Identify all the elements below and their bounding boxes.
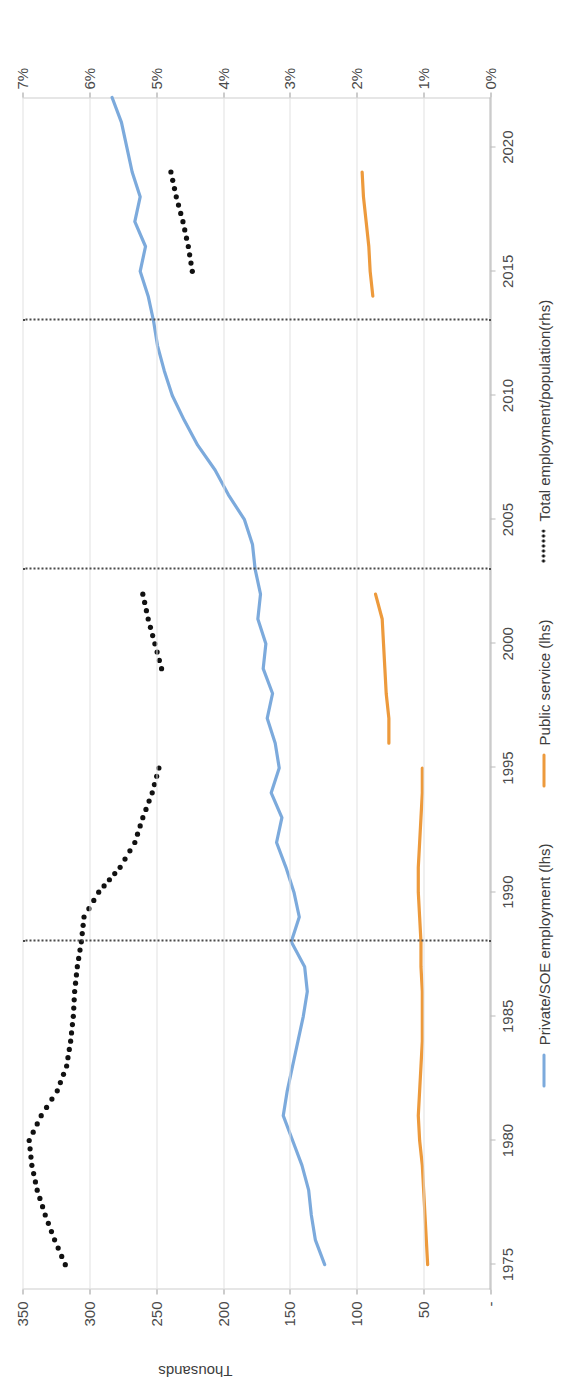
series-dot <box>49 1096 54 1101</box>
x-axis-tick <box>490 1263 495 1264</box>
legend-line-swatch-icon <box>542 1053 545 1087</box>
y-axis-left-tick <box>22 1289 23 1294</box>
y-axis-right-tick <box>156 92 157 97</box>
series-dot <box>72 980 77 985</box>
series-dot <box>34 1187 39 1192</box>
annotation-vline <box>22 319 490 321</box>
y-axis-right-tick-labels: 0%1%2%3%4%5%6%7% <box>22 37 490 89</box>
series-dot <box>185 243 190 248</box>
series-dot <box>91 897 96 902</box>
series-dot <box>77 947 82 952</box>
series-dot <box>127 848 132 853</box>
y-axis-right-tick <box>89 92 90 97</box>
series-dot <box>145 616 150 621</box>
series-dot <box>59 1253 64 1258</box>
annotation-vline <box>22 567 490 569</box>
legend-label: Total employment/population(rhs) <box>535 299 552 521</box>
series-layer <box>22 97 490 1289</box>
y-axis-right-tick-label: 7% <box>14 67 31 89</box>
x-axis-tick <box>490 767 495 768</box>
legend-item[interactable]: Public service (lhs) <box>535 619 552 787</box>
x-axis-tick-label: 2005 <box>498 502 515 535</box>
series-dot <box>173 194 178 199</box>
series-dot <box>146 798 151 803</box>
y-axis-left-tick-label: 300 <box>80 1301 97 1326</box>
x-axis-tick-label: 2000 <box>498 627 515 660</box>
series-dot <box>27 1146 32 1151</box>
series-dot <box>175 202 180 207</box>
series-dot <box>140 591 145 596</box>
x-axis-tick <box>490 642 495 643</box>
series-dot <box>150 632 155 637</box>
gridline-horizontal <box>356 97 357 1289</box>
plot-area <box>22 97 490 1289</box>
series-dot <box>171 185 176 190</box>
series-dot <box>149 790 154 795</box>
y-axis-right-tick-label: 3% <box>281 67 298 89</box>
series-dot <box>60 1071 65 1076</box>
y-axis-right-tick <box>289 92 290 97</box>
series-dot <box>48 1228 53 1233</box>
series-dot <box>55 1245 60 1250</box>
series-dot <box>64 1063 69 1068</box>
y-axis-left-tick <box>490 1289 491 1294</box>
x-axis-tick-label: 1985 <box>498 999 515 1032</box>
annotation-vline <box>22 939 490 941</box>
series-dot <box>79 930 84 935</box>
series-line <box>418 768 427 1265</box>
series-line <box>362 172 373 296</box>
series-dot <box>39 1204 44 1209</box>
series-dot <box>45 1220 50 1225</box>
series-dot <box>137 823 142 828</box>
series-dot <box>31 1171 36 1176</box>
series-dot <box>168 169 173 174</box>
y-axis-right-tick-label: 1% <box>415 67 432 89</box>
y-axis-left-tick <box>356 1289 357 1294</box>
x-axis-tick-labels: 1975198019851990199520002005201020152020 <box>496 97 520 1289</box>
y-axis-right-tick-label: 0% <box>482 67 499 89</box>
legend-item[interactable]: Private/SOE employment (lhs) <box>535 843 552 1087</box>
x-axis-tick-label: 2020 <box>498 130 515 163</box>
series-dot <box>117 864 122 869</box>
series-dot <box>68 1030 73 1035</box>
y-axis-left-tick-labels: -50100150200250300350 <box>22 1301 490 1353</box>
series-dot <box>182 227 187 232</box>
legend-item[interactable]: Total employment/population(rhs) <box>535 299 552 563</box>
y-axis-right-tick-label: 4% <box>214 67 231 89</box>
series-dot <box>73 972 78 977</box>
y-axis-left-tick <box>289 1289 290 1294</box>
series-dot <box>158 666 163 671</box>
series-dot <box>74 964 79 969</box>
series-dot <box>81 914 86 919</box>
legend-line-swatch-icon <box>542 753 545 787</box>
series-dot <box>183 235 188 240</box>
y-axis-right-tick <box>423 92 424 97</box>
y-axis-left-tick-label: 250 <box>147 1301 164 1326</box>
x-axis-tick <box>490 1139 495 1140</box>
y-axis-right-tick <box>356 92 357 97</box>
series-dot <box>178 210 183 215</box>
gridline-horizontal <box>22 97 23 1289</box>
series-dot <box>38 1113 43 1118</box>
series-dot <box>122 856 127 861</box>
y-axis-right-tick <box>22 92 23 97</box>
x-axis-tick-label: 1975 <box>498 1247 515 1280</box>
series-dot <box>71 997 76 1002</box>
x-axis-tick <box>490 891 495 892</box>
series-dot <box>187 252 192 257</box>
x-axis-tick-label: 1995 <box>498 751 515 784</box>
series-dot <box>34 1121 39 1126</box>
y-axis-right-tick <box>490 92 491 97</box>
gridline-horizontal <box>223 97 224 1289</box>
y-axis-right-tick-label: 6% <box>80 67 97 89</box>
y-axis-left-tick-label: 100 <box>348 1301 365 1326</box>
y-axis-left-tick-label: 150 <box>281 1301 298 1326</box>
series-dot <box>170 177 175 182</box>
x-axis-tick-label: 2015 <box>498 254 515 287</box>
x-axis-tick-label: 1980 <box>498 1123 515 1156</box>
y-axis-title: Thousands <box>158 1362 232 1379</box>
series-dot <box>62 1262 67 1267</box>
y-axis-right-tick-label: 2% <box>348 67 365 89</box>
series-dot <box>147 624 152 629</box>
